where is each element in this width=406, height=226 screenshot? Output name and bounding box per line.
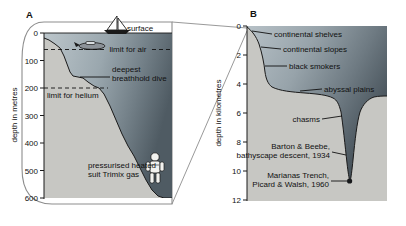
panel-b-label: B (250, 8, 257, 19)
label-abyssal-plains: abyssal plains (324, 85, 374, 94)
label-surface: surface (127, 24, 154, 33)
label-suit-line1: pressurised heated (88, 161, 156, 170)
figure-root: A 0 100 200 300 400 500 600 depth i (0, 0, 406, 226)
panel-a-tick-600: 600 (25, 194, 39, 203)
panel-b-tick-10: 10 (232, 167, 241, 176)
panel-a-tick-300: 300 (25, 112, 39, 121)
label-barton-line2: bathyscape descent, 1934 (237, 151, 331, 160)
marianas-trench-point (347, 178, 352, 183)
label-black-smokers: black smokers (289, 62, 340, 71)
label-limit-for-air: limit for air (110, 45, 147, 54)
label-continental-slopes: continental slopes (283, 45, 347, 54)
label-barton-line1: Barton & Beebe, (271, 142, 330, 151)
label-marianas-line1: Marianas Trench, (267, 171, 329, 180)
panel-b-tick-4: 4 (237, 80, 242, 89)
panel-a-tick-100: 100 (25, 57, 39, 66)
panel-b-axis-title: depth in kilometres (214, 79, 223, 146)
panel-b-tick-2: 2 (237, 51, 242, 60)
label-marianas-line2: Picard & Walsh, 1960 (252, 180, 329, 189)
panel-a-tick-200: 200 (25, 84, 39, 93)
panel-b-tick-12: 12 (232, 196, 241, 205)
label-continental-shelves: continental shelves (274, 30, 342, 39)
label-breathhold-dive: breathhold dive (112, 74, 167, 83)
panel-b-tick-0: 0 (237, 22, 242, 31)
label-limit-for-helium: limit for helium (47, 91, 99, 100)
label-suit-line2: suit Trimix gas (88, 170, 139, 179)
panel-b-tick-8: 8 (237, 138, 242, 147)
panel-b-tick-6: 6 (237, 109, 242, 118)
panel-a-tick-0: 0 (34, 29, 39, 38)
panel-a-tick-400: 400 (25, 139, 39, 148)
label-deepest: deepest (112, 65, 141, 74)
panel-a-label: A (26, 9, 33, 20)
ocean-depth-figure: A 0 100 200 300 400 500 600 depth i (0, 0, 406, 226)
label-chasms: chasms (292, 115, 320, 124)
panel-a-tick-500: 500 (25, 167, 39, 176)
panel-a-axis-title: depth in metres (10, 87, 19, 142)
